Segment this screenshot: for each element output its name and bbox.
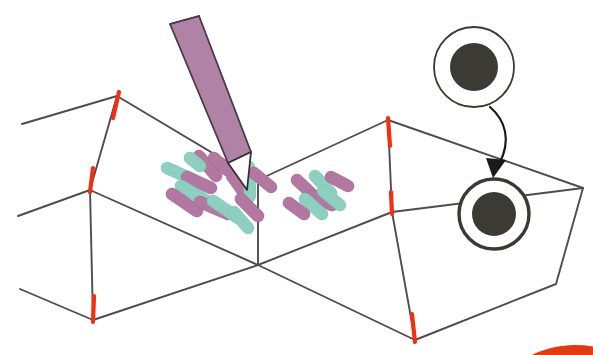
bacterium-left-rod-13: [190, 158, 200, 166]
marker-mid-right: [391, 192, 392, 214]
magnified-bacterium-inset-nucleus: [450, 43, 498, 91]
marker-bottom-right: [412, 314, 415, 342]
illustration-svg: [0, 0, 593, 355]
marker-bottom-left: [93, 296, 94, 322]
marker-mid-left: [90, 168, 93, 192]
figure-canvas: [0, 0, 593, 355]
surface-bacterium-nucleus: [472, 192, 516, 236]
marker-top-right: [388, 118, 390, 146]
